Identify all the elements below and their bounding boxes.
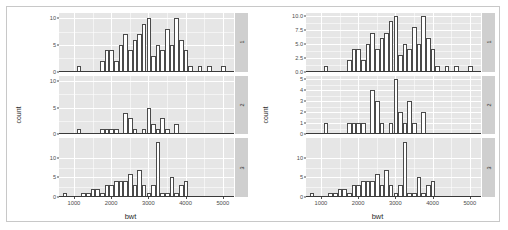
histogram-bars (306, 76, 481, 135)
x-tick-label: 1000 (67, 200, 80, 206)
axis-baseline (306, 133, 481, 134)
y-tick-label: 1 (300, 120, 303, 126)
y-axis-ticks: 0510 (41, 138, 59, 197)
axis-baseline (59, 133, 234, 134)
plot-region (59, 13, 234, 72)
facet-strip-label: 3 (239, 166, 245, 169)
x-tick-label: 1000 (314, 200, 327, 206)
facet-strip-3: 3 (235, 138, 248, 197)
right-x-axis-label: bwt (254, 212, 501, 221)
x-tick-label: 4000 (426, 200, 439, 206)
y-axis-ticks: 0510 (41, 76, 59, 135)
right-plot: count 0.02.55.07.510.0101234520510310002… (254, 7, 501, 223)
figure-frame: count 0510105102051031000200030004000500… (6, 6, 500, 222)
right-panel-stack: 0.02.55.07.510.0101234520510310002000300… (288, 13, 495, 197)
plot-region (59, 138, 234, 197)
x-tick-mark (148, 197, 149, 199)
histogram-bars (306, 13, 481, 72)
y-axis-ticks: 012345 (288, 76, 306, 135)
y-tick-label: 10 (50, 78, 56, 84)
facet-panel-2: 0123452 (288, 76, 495, 135)
gridline-horizontal (59, 134, 234, 135)
y-tick-label: 10 (50, 155, 56, 161)
y-tick-label: 5 (53, 174, 56, 180)
x-tick-label: 5000 (216, 200, 229, 206)
x-tick-label: 2000 (105, 200, 118, 206)
y-tick-label: 0 (53, 131, 56, 137)
facet-panel-2: 05102 (41, 76, 248, 135)
y-tick-label: 10.0 (292, 13, 303, 19)
y-tick-label: 0 (300, 131, 303, 137)
y-tick-label: 10 (297, 155, 303, 161)
gridline-horizontal (306, 134, 481, 135)
left-y-axis-label: count (15, 106, 22, 123)
x-tick-mark (111, 197, 112, 199)
y-tick-label: 0 (53, 194, 56, 200)
facet-strip-label: 2 (239, 103, 245, 106)
facet-strip-3: 3 (482, 138, 495, 197)
x-tick-mark (74, 197, 75, 199)
x-tick-label: 3000 (142, 200, 155, 206)
facet-strip-1: 1 (482, 13, 495, 72)
x-tick-mark (358, 197, 359, 199)
plot-region (306, 13, 481, 72)
histogram-bar (156, 142, 161, 197)
left-plot: count 0510105102051031000200030004000500… (7, 7, 254, 223)
y-axis-ticks: 0.02.55.07.510.0 (288, 13, 306, 72)
x-tick-mark (186, 197, 187, 199)
histogram-bars (59, 138, 234, 197)
facet-strip-label: 1 (239, 41, 245, 44)
y-tick-label: 0 (53, 69, 56, 75)
gridline-horizontal (306, 72, 481, 73)
x-tick-mark (395, 197, 396, 199)
gridline-horizontal (59, 72, 234, 73)
histogram-bar (403, 142, 408, 197)
facet-strip-1: 1 (235, 13, 248, 72)
histogram-bar (421, 112, 426, 134)
x-tick-label: 5000 (463, 200, 476, 206)
x-tick-label: 2000 (352, 200, 365, 206)
facet-panel-3: 05103 (288, 138, 495, 197)
facet-strip-2: 2 (482, 76, 495, 135)
x-tick-mark (223, 197, 224, 199)
axis-baseline (306, 71, 481, 72)
x-tick-mark (433, 197, 434, 199)
x-tick-label: 3000 (389, 200, 402, 206)
left-panel-stack: 05101051020510310002000300040005000 (41, 13, 248, 197)
y-tick-label: 3 (300, 98, 303, 104)
y-tick-label: 10 (50, 15, 56, 21)
plot-region (306, 76, 481, 135)
y-tick-label: 0.0 (295, 69, 303, 75)
histogram-bars (59, 13, 234, 72)
y-tick-label: 5.0 (295, 41, 303, 47)
left-x-axis-label: bwt (7, 212, 254, 221)
y-tick-label: 0 (300, 194, 303, 200)
plot-region (306, 138, 481, 197)
histogram-bars (59, 76, 234, 135)
facet-panel-1: 0.02.55.07.510.01 (288, 13, 495, 72)
y-tick-label: 5 (53, 42, 56, 48)
y-tick-label: 5 (300, 76, 303, 82)
y-tick-label: 2 (300, 109, 303, 115)
right-y-axis-label: count (262, 106, 269, 123)
histogram-bar (184, 181, 189, 197)
x-tick-mark (321, 197, 322, 199)
facet-strip-2: 2 (235, 76, 248, 135)
facet-strip-label: 3 (486, 166, 492, 169)
axis-baseline (59, 71, 234, 72)
y-tick-label: 5 (53, 105, 56, 111)
x-tick-mark (470, 197, 471, 199)
y-tick-label: 2.5 (295, 55, 303, 61)
y-axis-ticks: 0510 (41, 13, 59, 72)
plot-region (59, 76, 234, 135)
facet-panel-3: 05103 (41, 138, 248, 197)
histogram-bars (306, 138, 481, 197)
y-tick-label: 4 (300, 87, 303, 93)
y-tick-label: 7.5 (295, 27, 303, 33)
y-tick-label: 5 (300, 174, 303, 180)
x-tick-label: 4000 (179, 200, 192, 206)
histogram-bar (431, 181, 436, 197)
y-axis-ticks: 0510 (288, 138, 306, 197)
facet-panel-1: 05101 (41, 13, 248, 72)
facet-strip-label: 1 (486, 41, 492, 44)
